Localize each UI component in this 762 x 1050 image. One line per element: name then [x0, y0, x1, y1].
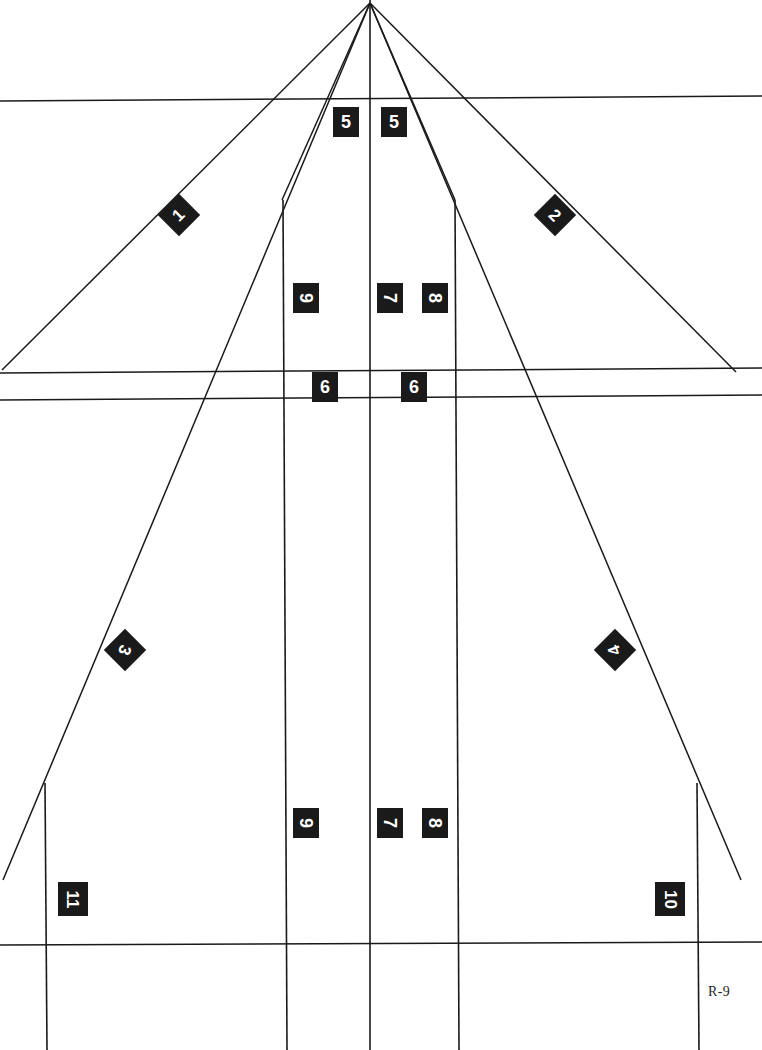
- baseline: [0, 942, 762, 945]
- callout-5-left: 5: [333, 107, 359, 137]
- callout-6-right: 6: [401, 372, 427, 402]
- datum-lower: [0, 395, 762, 400]
- rail-right-inner: [455, 200, 459, 1050]
- callout-9-upper-text: 9: [297, 293, 315, 303]
- rail-left-inner: [283, 200, 287, 1050]
- callout-8-upper-text: 8: [426, 293, 444, 303]
- callout-9-upper: 9: [293, 283, 319, 313]
- vertical-lines-group: [45, 0, 699, 1050]
- callout-9-lower-text: 9: [297, 818, 315, 828]
- callout-5-right-text: 5: [389, 113, 399, 131]
- rail-left-outer: [45, 783, 47, 1050]
- callout-6-left: 6: [312, 372, 338, 402]
- callout-7-upper: 7: [377, 283, 403, 313]
- callout-10: 10: [655, 882, 685, 916]
- drawing-sheet: 551297866349781110 R-9: [0, 0, 762, 1050]
- callout-5-left-text: 5: [341, 113, 351, 131]
- ray-right-inner: [370, 3, 455, 200]
- horizon-upper: [0, 96, 762, 101]
- callout-1-text: 1: [170, 206, 189, 225]
- ray-left-long: [3, 3, 370, 880]
- callout-5-right: 5: [381, 107, 407, 137]
- line-diagram: [0, 0, 762, 1050]
- callout-7-lower: 7: [377, 808, 403, 838]
- datum-upper: [0, 368, 762, 373]
- callout-8-lower: 8: [422, 808, 448, 838]
- callout-7-lower-text: 7: [381, 818, 399, 828]
- ray-right-outer: [370, 3, 736, 372]
- callout-6-left-text: 6: [320, 378, 330, 396]
- sheet-reference-label: R-9: [708, 984, 730, 1000]
- callout-11-text: 11: [64, 890, 81, 908]
- callout-8-upper: 8: [422, 283, 448, 313]
- callout-4-text: 4: [605, 643, 624, 658]
- callout-11: 11: [58, 882, 88, 916]
- callout-2-text: 2: [546, 206, 565, 225]
- convergent-rays-group: [2, 3, 741, 880]
- callout-7-upper-text: 7: [381, 293, 399, 303]
- ray-left-inner: [282, 3, 370, 200]
- ray-left-outer: [2, 3, 370, 370]
- callout-6-right-text: 6: [409, 378, 419, 396]
- ray-right-long: [370, 3, 741, 880]
- callout-8-lower-text: 8: [426, 818, 444, 828]
- callout-3-text: 3: [115, 643, 134, 658]
- callout-10-text: 10: [661, 890, 678, 909]
- rail-right-outer: [697, 783, 699, 1050]
- callout-9-lower: 9: [293, 808, 319, 838]
